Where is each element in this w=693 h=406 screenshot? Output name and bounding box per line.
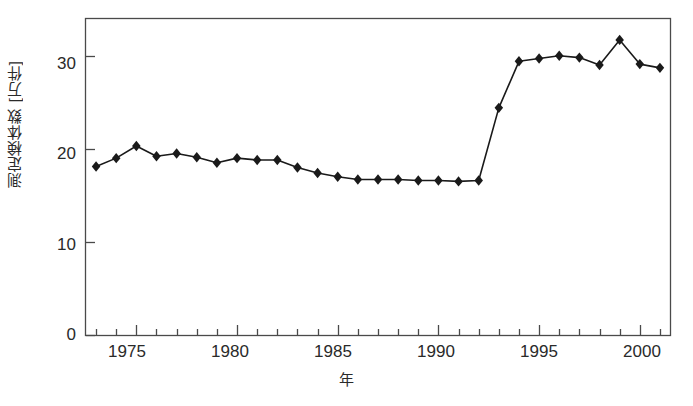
data-point-1977 <box>172 148 181 158</box>
data-point-1990 <box>434 175 443 185</box>
data-point-2001 <box>656 63 665 73</box>
data-point-1978 <box>192 152 201 162</box>
y-tick-marks <box>86 57 95 336</box>
data-point-1994 <box>515 56 524 66</box>
data-point-1993 <box>495 103 504 113</box>
data-point-1973 <box>92 161 101 171</box>
data-line <box>96 40 660 181</box>
data-point-1974 <box>112 153 121 163</box>
data-markers <box>92 35 664 187</box>
data-point-1979 <box>213 158 222 168</box>
x-tick-marks <box>97 325 661 335</box>
data-point-1991 <box>454 176 463 186</box>
data-point-1988 <box>394 174 403 184</box>
plot-area <box>0 0 693 406</box>
data-point-1986 <box>354 174 363 184</box>
chart-figure: 測定検体数 [万件] 30 20 10 0 1975 1980 1985 199… <box>0 0 693 406</box>
data-point-1980 <box>233 153 242 163</box>
data-point-1996 <box>555 51 564 61</box>
data-point-1975 <box>132 141 141 151</box>
data-point-1989 <box>414 175 423 185</box>
data-point-1992 <box>474 175 483 185</box>
data-point-1985 <box>333 172 342 182</box>
data-point-1983 <box>293 162 302 172</box>
data-point-1997 <box>575 52 584 62</box>
data-point-1976 <box>152 151 161 161</box>
data-point-1995 <box>535 53 544 63</box>
data-point-1982 <box>273 155 282 165</box>
data-point-1987 <box>374 174 383 184</box>
data-point-1981 <box>253 155 262 165</box>
data-point-1984 <box>313 168 322 178</box>
